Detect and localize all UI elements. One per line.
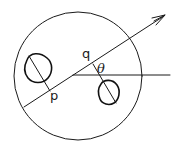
perpendicular-p-line: [29, 56, 50, 91]
outer-circle: [14, 12, 142, 140]
left-blob: [25, 54, 52, 83]
label-q: q: [82, 46, 90, 61]
directed-line: [24, 16, 164, 107]
label-theta: θ: [97, 61, 105, 76]
right-blob: [99, 80, 120, 104]
diagram-canvas: p q θ: [0, 0, 180, 145]
label-p: p: [50, 88, 58, 103]
